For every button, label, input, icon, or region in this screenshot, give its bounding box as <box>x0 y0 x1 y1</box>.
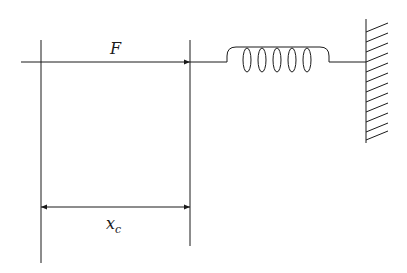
spring-diagram: F xc <box>0 0 407 273</box>
spring <box>190 47 366 72</box>
force-label: F <box>109 39 122 58</box>
displacement-label: xc <box>106 214 121 236</box>
displacement-label-main: x <box>106 214 115 233</box>
fixed-wall <box>366 19 388 143</box>
displacement-label-subscript: c <box>115 223 121 236</box>
